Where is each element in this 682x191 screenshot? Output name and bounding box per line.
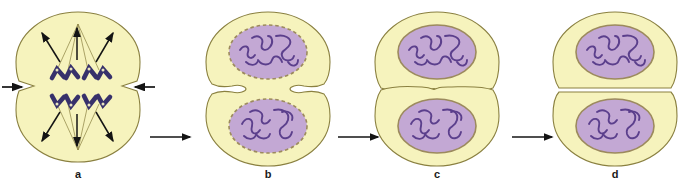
panel-a [2,12,155,162]
panel-label-d: d [605,168,625,180]
cell-membrane-a [16,12,140,162]
nucleus-upper-b [229,25,307,79]
cytokinesis-diagram [0,0,682,191]
panel-label-b: b [258,168,278,180]
nucleus-lower-b [229,99,307,153]
panel-label-a: a [68,168,88,180]
nucleus-lower-c [398,99,476,153]
panel-c [375,12,499,166]
panel-d [553,12,677,166]
nucleus-lower-d [576,99,654,153]
nucleus-upper-c [398,25,476,79]
panel-b [206,12,330,166]
nucleus-upper-d [576,25,654,79]
panel-label-c: c [427,168,447,180]
